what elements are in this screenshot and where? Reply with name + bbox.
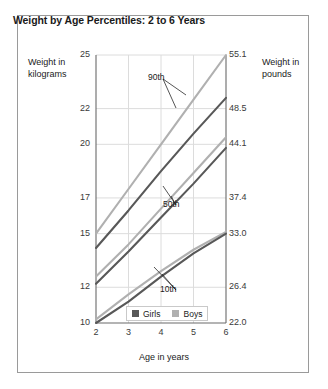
- x-tick: 4: [152, 327, 170, 337]
- x-tick: 3: [120, 327, 138, 337]
- legend-label-boys: Boys: [183, 309, 202, 319]
- annotation-label-50th: 50th: [163, 199, 180, 209]
- girls-swatch-icon: [132, 310, 139, 317]
- annotation-label-90th: 90th: [148, 72, 165, 82]
- x-tick: 2: [87, 327, 105, 337]
- legend-label-girls: Girls: [143, 309, 160, 319]
- y-tick-left: 12: [64, 281, 90, 291]
- annotation-label-10th: 10th: [160, 284, 177, 294]
- y-tick-left: 20: [64, 138, 90, 148]
- legend-item-girls: Girls: [132, 309, 160, 319]
- boys-swatch-icon: [172, 310, 179, 317]
- y-tick-right: 55.1: [229, 49, 259, 59]
- y-tick-left: 25: [64, 49, 90, 59]
- x-tick: 6: [217, 327, 235, 337]
- y-tick-right: 48.5: [229, 103, 259, 113]
- y-tick-left: 10: [64, 317, 90, 327]
- x-tick: 5: [185, 327, 203, 337]
- chart-legend: Girls Boys: [126, 306, 208, 321]
- y-tick-right: 22.0: [229, 317, 259, 327]
- y-tick-right: 33.0: [229, 228, 259, 238]
- y-tick-right: 44.1: [229, 138, 259, 148]
- legend-item-boys: Boys: [172, 309, 202, 319]
- y-tick-right: 37.4: [229, 192, 259, 202]
- y-tick-left: 17: [64, 192, 90, 202]
- y-tick-left: 22: [64, 103, 90, 113]
- y-tick-left: 15: [64, 228, 90, 238]
- y-tick-right: 26.4: [229, 281, 259, 291]
